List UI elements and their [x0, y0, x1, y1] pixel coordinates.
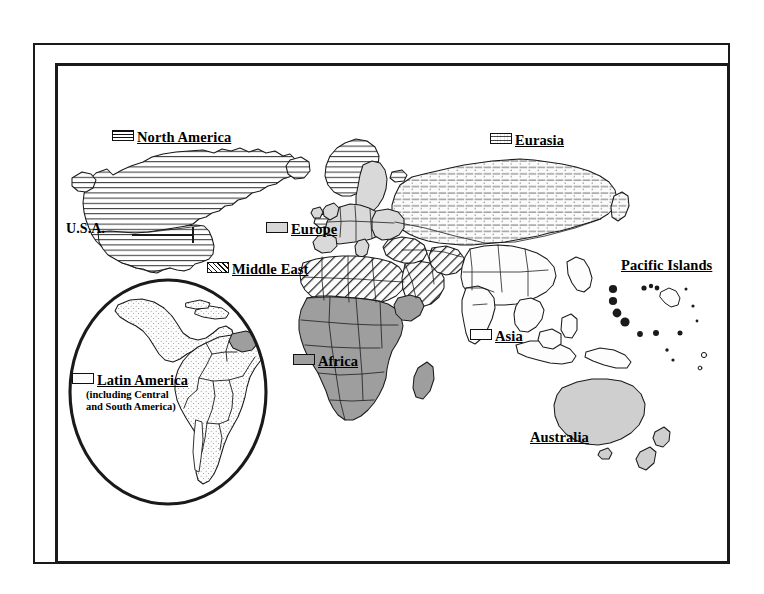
- new-zealand-landmass: [653, 427, 670, 447]
- pacific-dot: [620, 317, 629, 326]
- pacific-dot: [696, 320, 699, 323]
- pacific-dot: [649, 284, 653, 288]
- map-landmasses: [70, 139, 707, 504]
- hawaii-island: [660, 288, 680, 307]
- north-america-label: North America: [137, 129, 231, 145]
- pacific-dot-small: [701, 352, 706, 357]
- iceland-island: [390, 170, 407, 182]
- eurasia-swatch-icon: [490, 133, 512, 144]
- southeast-asia-landmass: [514, 298, 544, 332]
- pacific-dot: [655, 286, 660, 291]
- baffin-island: [286, 157, 310, 179]
- latin-america-label: Latin America: [97, 372, 188, 388]
- philippines-landmass: [561, 314, 577, 338]
- horn-of-africa-landmass: [394, 295, 424, 321]
- europe-label: Europe: [291, 221, 337, 237]
- madagascar-island: [413, 362, 434, 399]
- usa-label: U.S.A.: [66, 221, 105, 236]
- pacific-dot: [609, 297, 617, 305]
- russia-landmass: [392, 159, 617, 245]
- north-america-swatch-icon: [112, 130, 134, 141]
- eurasia-label: Eurasia: [515, 132, 564, 148]
- pacific-islands-label: Pacific Islands: [621, 257, 712, 273]
- latin-america-sub-line-2: and South America): [86, 401, 188, 413]
- pacific-dot: [637, 331, 643, 337]
- new-zealand-south-island: [636, 447, 656, 470]
- pacific-dot-small: [698, 366, 702, 370]
- legend-asia[interactable]: Asia: [470, 329, 523, 344]
- asia-swatch-icon: [470, 329, 492, 340]
- region-australia: [554, 379, 670, 470]
- legend-north-america[interactable]: North America: [112, 130, 231, 145]
- usa-leader-tick: [192, 227, 194, 243]
- legend-eurasia[interactable]: Eurasia: [490, 133, 564, 148]
- legend-pacific-islands[interactable]: Pacific Islands: [621, 258, 712, 273]
- region-eurasia: [392, 159, 629, 245]
- latin-america-swatch-icon: [72, 373, 94, 384]
- pacific-dot: [691, 304, 694, 307]
- middle-east-label: Middle East: [232, 261, 308, 277]
- tasmania-island: [598, 448, 612, 459]
- legend-middle-east[interactable]: Middle East: [207, 262, 308, 277]
- pacific-dot: [609, 285, 617, 293]
- asia-label: Asia: [495, 328, 523, 344]
- korea-japan-landmass: [567, 257, 592, 292]
- europe-swatch-icon: [266, 222, 288, 233]
- africa-label: Africa: [318, 353, 358, 369]
- italy-landmass: [355, 239, 369, 258]
- pacific-dot: [613, 309, 622, 318]
- legend-latin-america[interactable]: Latin America (including Central and Sou…: [72, 373, 188, 413]
- legend-europe[interactable]: Europe: [266, 222, 337, 237]
- kamchatka-landmass: [611, 192, 629, 221]
- pacific-dot: [665, 348, 668, 351]
- pacific-dot: [685, 288, 688, 291]
- new-guinea-landmass: [585, 348, 631, 368]
- legend-australia[interactable]: Australia: [530, 430, 589, 445]
- africa-swatch-icon: [293, 354, 315, 365]
- eastern-europe-landmass: [372, 209, 404, 240]
- legend-africa[interactable]: Africa: [293, 354, 358, 369]
- pacific-dot: [671, 358, 674, 361]
- middle-east-swatch-icon: [207, 262, 229, 273]
- figure-canvas: North America U.S.A. Eurasia Europe Midd…: [0, 0, 764, 594]
- australia-label: Australia: [530, 429, 589, 445]
- region-asia: [461, 245, 631, 368]
- latin-america-sub-line-1: (including Central: [86, 389, 188, 401]
- pacific-dot: [653, 330, 659, 336]
- pacific-dot: [678, 331, 683, 336]
- world-map-svg: [0, 0, 764, 594]
- usa-leader-line: [132, 234, 194, 236]
- legend-usa[interactable]: U.S.A.: [66, 222, 105, 237]
- pacific-dot: [641, 285, 646, 290]
- ireland-island: [311, 207, 323, 218]
